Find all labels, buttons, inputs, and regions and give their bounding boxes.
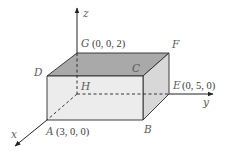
z-axis-label: z bbox=[82, 7, 89, 19]
vertex-a-coords: (3, 0, 0) bbox=[56, 126, 90, 138]
vertex-b-label: B bbox=[143, 123, 152, 135]
box-diagram: z x y G (0, 0, 2) F D C H E (0, 5, 0) A … bbox=[0, 0, 232, 158]
vertex-f-label: F bbox=[171, 38, 180, 50]
vertex-h-label: H bbox=[80, 80, 91, 92]
vertex-c-label: C bbox=[132, 62, 140, 74]
vertex-g-coords: (0, 0, 2) bbox=[92, 38, 126, 50]
vertex-e-coords: (0, 5, 0) bbox=[182, 80, 216, 92]
x-axis-label: x bbox=[11, 128, 17, 140]
x-axis bbox=[15, 120, 47, 146]
front-face bbox=[47, 76, 143, 120]
vertex-g-label: G bbox=[81, 37, 89, 49]
y-axis-label: y bbox=[202, 96, 210, 108]
vertex-e-label: E bbox=[172, 79, 181, 91]
vertex-d-label: D bbox=[33, 66, 43, 78]
vertex-a-label: A bbox=[45, 125, 54, 137]
